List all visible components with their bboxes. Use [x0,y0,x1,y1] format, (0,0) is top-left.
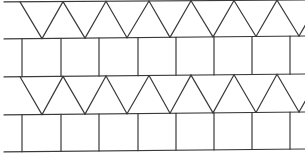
triangle-edge [191,75,213,113]
horizontal-line [4,112,305,115]
row-squares-1 [22,36,290,77]
triangle-edge [85,76,106,114]
triangle-square-frieze-diagram [0,0,305,156]
triangle-edge [170,1,191,38]
triangle-edge [20,77,42,115]
row-triangles-0 [20,0,305,38]
triangle-edge [256,0,277,36]
triangle-edge [127,1,149,38]
triangle-edge [85,1,106,38]
horizontal-line [4,149,305,152]
triangle-edge [256,74,277,112]
triangle-edge [20,2,42,39]
triangle-edge [234,0,256,36]
row-triangles-2 [20,74,305,114]
triangle-edge [63,76,85,114]
triangle-edge [42,76,63,114]
horizontal-lines [4,0,305,152]
triangle-edge [277,74,299,112]
triangle-edge [299,93,305,112]
triangle-edge [213,0,234,36]
row-squares-3 [22,112,290,152]
triangle-edge [213,75,234,113]
triangle-edge [299,17,305,36]
horizontal-line [4,0,305,2]
triangle-edge [149,76,170,114]
horizontal-line [4,36,305,39]
triangle-edge [106,76,127,114]
horizontal-line [4,74,305,77]
triangle-edge [63,2,85,39]
triangle-edge [170,75,191,113]
triangle-edge [234,75,256,113]
triangle-edge [127,76,149,114]
triangle-edge [106,1,127,37]
triangle-edge [42,2,63,39]
triangle-edge [277,0,299,36]
triangle-edge [149,1,170,37]
triangle-edge [191,1,213,37]
